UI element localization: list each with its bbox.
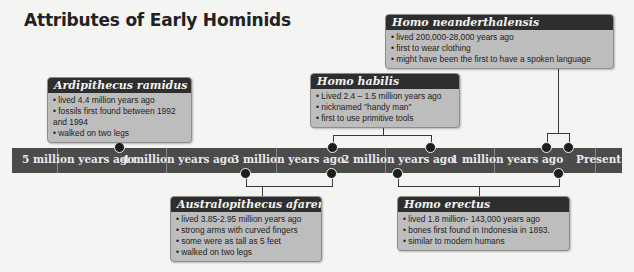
fact-list: lived 3.85-2.95 million years ago strong… bbox=[171, 212, 321, 261]
marker-neanderthal-end bbox=[563, 142, 574, 153]
fact-list: Lived 2.4 – 1.5 million years ago nickna… bbox=[311, 89, 459, 127]
connector-australopithecus bbox=[262, 186, 263, 196]
card-title: Homo erectus bbox=[398, 197, 569, 212]
card-homo-erectus: Homo erectus lived 1.8 million- 143,000 … bbox=[397, 196, 570, 251]
marker-habilis-start bbox=[327, 142, 338, 153]
marker-australopithecus-start bbox=[240, 168, 251, 179]
card-title: Ardipithecus ramidus bbox=[48, 78, 191, 93]
timeline-label-5mya: 5 million years ago bbox=[22, 153, 134, 165]
fact-item: first to use primitive tools bbox=[316, 113, 454, 124]
fact-item: walked on two legs bbox=[53, 128, 186, 139]
page-title: Attributes of Early Hominids bbox=[24, 10, 291, 30]
connector-australopithecus-bracket bbox=[246, 186, 333, 187]
card-homo-habilis: Homo habilis Lived 2.4 – 1.5 million yea… bbox=[310, 73, 460, 128]
fact-list: lived 4.4 million years ago fossils firs… bbox=[48, 93, 191, 142]
fact-item: might have been the first to have a spok… bbox=[391, 54, 608, 65]
fact-item: lived 4.4 million years ago bbox=[53, 95, 186, 106]
card-ardipithecus-ramidus: Ardipithecus ramidus lived 4.4 million y… bbox=[47, 77, 192, 143]
fact-item: lived 200,000-28,000 years ago bbox=[391, 32, 608, 43]
timeline-bar: 5 million years ago 4 million years ago … bbox=[12, 148, 622, 173]
marker-erectus-start bbox=[392, 168, 403, 179]
timeline-label-1mya: 1 million years ago bbox=[451, 153, 563, 165]
fact-item: bones first found in Indonesia in 1893. bbox=[403, 225, 564, 236]
connector-habilis-bracket bbox=[333, 135, 432, 136]
card-homo-neanderthalensis: Homo neanderthalensis lived 200,000-28,0… bbox=[385, 14, 614, 69]
timeline-label-3mya: 3 million years ago bbox=[232, 153, 344, 165]
connector-erectus bbox=[479, 186, 480, 196]
card-australopithecus-afarenis: Australopithecus afarenis lived 3.85-2.9… bbox=[170, 196, 322, 262]
marker-neanderthal-start bbox=[541, 142, 552, 153]
marker-habilis-end bbox=[425, 142, 436, 153]
fact-item: fossils first found between 1992 and 199… bbox=[53, 106, 186, 128]
fact-item: strong arms with curved fingers bbox=[176, 225, 316, 236]
fact-item: walked on two legs bbox=[176, 247, 316, 258]
fact-item: lived 3.85-2.95 million years ago bbox=[176, 214, 316, 225]
connector-neanderthal bbox=[558, 64, 559, 133]
timeline-label-present: Present bbox=[576, 153, 621, 165]
fact-item: some were as tall as 5 feet bbox=[176, 236, 316, 247]
fact-item: first to wear clothing bbox=[391, 43, 608, 54]
card-title: Homo habilis bbox=[311, 74, 459, 89]
marker-erectus-end bbox=[553, 168, 564, 179]
card-title: Homo neanderthalensis bbox=[386, 15, 613, 30]
fact-item: similar to modern humans bbox=[403, 236, 564, 247]
card-title: Australopithecus afarenis bbox=[171, 197, 321, 212]
fact-list: lived 200,000-28,000 years ago first to … bbox=[386, 30, 613, 68]
timeline-label-4mya: 4 million years ago bbox=[122, 153, 234, 165]
fact-item: Lived 2.4 – 1.5 million years ago bbox=[316, 91, 454, 102]
marker-australopithecus-end bbox=[326, 168, 337, 179]
fact-item: lived 1.8 million- 143,000 years ago bbox=[403, 214, 564, 225]
fact-item: nicknamed "handy man" bbox=[316, 102, 454, 113]
marker-ardipithecus bbox=[114, 142, 125, 153]
timeline-label-2mya: 2 million years ago bbox=[342, 153, 454, 165]
fact-list: lived 1.8 million- 143,000 years ago bon… bbox=[398, 212, 569, 250]
connector-neanderthal-bracket bbox=[547, 133, 570, 134]
